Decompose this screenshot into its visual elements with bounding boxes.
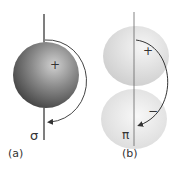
sign-plus: + bbox=[50, 58, 60, 72]
panel-a bbox=[13, 14, 87, 140]
panel-label-b: (b) bbox=[122, 147, 138, 160]
sign-plus: + bbox=[143, 44, 153, 58]
orbital-diagram: + σ (a) + − π (b) bbox=[0, 0, 186, 177]
pi-lobe-top bbox=[103, 26, 169, 86]
sign-minus: − bbox=[148, 104, 158, 118]
orbital-figure bbox=[0, 0, 186, 177]
panel-label-a: (a) bbox=[8, 147, 23, 160]
sigma-symbol: σ bbox=[30, 128, 38, 143]
sigma-sphere bbox=[13, 42, 79, 108]
pi-symbol: π bbox=[122, 128, 129, 142]
panel-b bbox=[101, 12, 169, 149]
